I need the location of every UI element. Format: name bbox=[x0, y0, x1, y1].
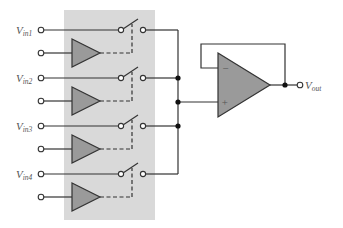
opamp-minus: − bbox=[222, 62, 229, 74]
label-vin3: Vin3 bbox=[16, 120, 33, 134]
label-vout: Vout bbox=[305, 79, 322, 93]
mux-circuit-diagram: − + Vin1 Vin2 Vin3 Vin4 Vout bbox=[0, 0, 343, 228]
label-vin4: Vin4 bbox=[16, 168, 33, 182]
label-vin1: Vin1 bbox=[16, 24, 32, 38]
opamp-plus: + bbox=[221, 96, 228, 108]
output-terminal bbox=[297, 82, 303, 88]
label-vin2: Vin2 bbox=[16, 72, 33, 86]
